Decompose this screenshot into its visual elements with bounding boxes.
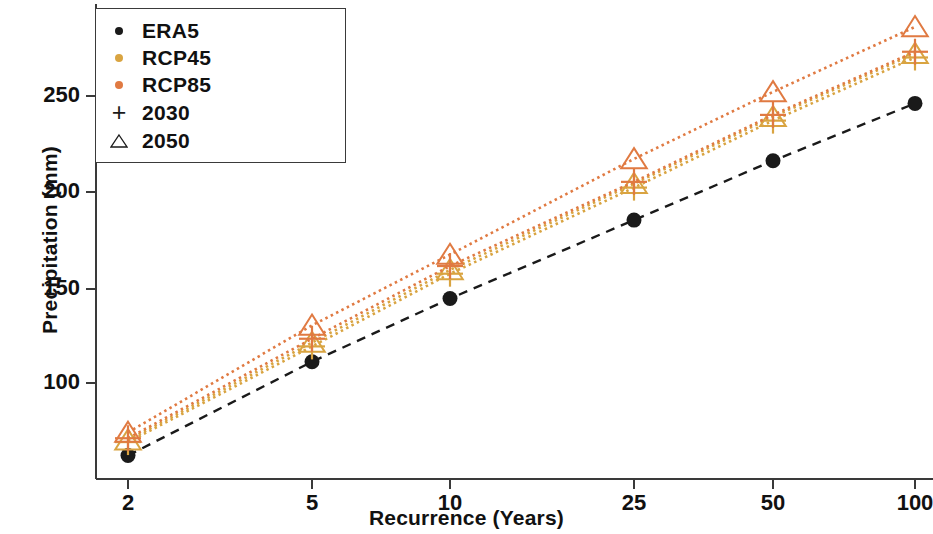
- data-point-rcp85-2050: [621, 148, 647, 168]
- data-point-rcp85-2030: [115, 425, 141, 451]
- legend-dot-icon-era5: [96, 27, 142, 35]
- data-point-rcp85-2030: [621, 169, 647, 195]
- precipitation-recurrence-chart: Precipitation (mm) Recurrence (Years) 25…: [0, 0, 933, 534]
- data-point-era5: [627, 213, 642, 228]
- legend-label-2050: 2050: [142, 129, 190, 153]
- data-point-era5: [766, 153, 781, 168]
- data-point-rcp85-2030: [902, 39, 928, 65]
- data-point-era5: [443, 291, 458, 306]
- legend-item-rcp45: RCP45: [96, 44, 345, 71]
- legend-label-rcp85: RCP85: [142, 73, 211, 97]
- data-point-rcp85-2050: [760, 81, 786, 101]
- legend-dot-icon-rcp45: [96, 54, 142, 62]
- chart-legend: ERA5 RCP45 RCP85 + 2030 2050: [95, 8, 346, 163]
- plus-marker-icon: +: [96, 100, 142, 125]
- legend-item-2030: + 2030: [96, 99, 345, 126]
- legend-dot-icon-rcp85: [96, 81, 142, 89]
- legend-item-rcp85: RCP85: [96, 71, 345, 98]
- legend-item-era5: ERA5: [96, 17, 345, 44]
- legend-label-2030: 2030: [142, 101, 190, 125]
- legend-item-2050: 2050: [96, 127, 345, 154]
- legend-label-rcp45: RCP45: [142, 46, 211, 70]
- legend-label-era5: ERA5: [142, 19, 199, 43]
- data-point-era5: [908, 96, 923, 111]
- data-point-rcp85-2030: [760, 102, 786, 128]
- triangle-marker-icon: [96, 133, 142, 149]
- data-point-rcp85-2050: [902, 16, 928, 36]
